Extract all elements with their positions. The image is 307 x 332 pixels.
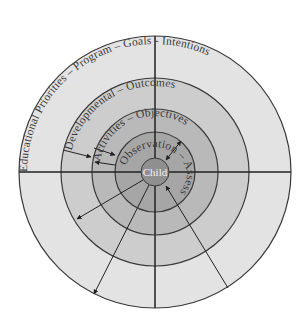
circle-diagram: Educational Priorities – Program – Goals… <box>0 0 307 332</box>
diagram: Educational Priorities – Program – Goals… <box>0 0 307 332</box>
child-label: Child <box>143 166 168 178</box>
